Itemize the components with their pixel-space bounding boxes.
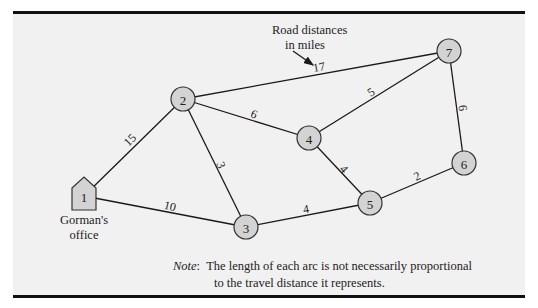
edge-2-4 <box>183 99 309 138</box>
node-1-caption-line-1: Gorman's <box>60 213 108 227</box>
note-line-2: to the travel distance it represents. <box>173 275 472 292</box>
edge-1-2 <box>84 99 183 196</box>
node-label: 4 <box>306 132 313 147</box>
edge-label-5-6: 2 <box>411 168 422 183</box>
edge-labels: 1510361744526 <box>121 59 471 216</box>
node-1-caption-line-2: office <box>70 228 99 242</box>
edge-label-4-5: 4 <box>337 162 351 176</box>
node-label: 3 <box>243 221 250 236</box>
node-label: 5 <box>367 197 374 212</box>
note: Note: The length of each arc is not nece… <box>173 258 472 292</box>
node-4: 4 <box>297 126 321 150</box>
node-6: 6 <box>452 151 476 175</box>
node-label: 2 <box>180 93 187 108</box>
node-label: 7 <box>446 45 453 60</box>
annotation-line-2: in miles <box>285 38 325 52</box>
node-3: 3 <box>234 215 258 239</box>
edge-label-2-3: 3 <box>213 160 228 171</box>
node-7: 7 <box>437 39 461 63</box>
note-line-1: Note: The length of each arc is not nece… <box>173 258 472 275</box>
edge-label-6-7: 6 <box>456 104 471 112</box>
node-1: 1 <box>72 177 96 210</box>
node-1-caption: Gorman's office <box>60 213 108 242</box>
edge-2-7 <box>183 51 449 99</box>
node-2: 2 <box>171 87 195 111</box>
edge-label-2-4: 6 <box>248 106 259 121</box>
edge-label-1-2: 15 <box>121 131 139 149</box>
annotation-arrow <box>293 51 313 65</box>
annotation-line-1: Road distances <box>272 23 347 37</box>
note-separator: : <box>197 259 200 273</box>
edge-label-1-3: 10 <box>162 198 177 214</box>
edges <box>84 51 464 227</box>
annotation: Road distances in miles <box>272 23 347 65</box>
edge-2-3 <box>183 99 246 227</box>
node-label: 6 <box>461 157 468 172</box>
edge-label-3-5: 4 <box>302 202 310 217</box>
edge-label-4-7: 5 <box>365 85 378 100</box>
note-text-1: The length of each arc is not necessaril… <box>206 259 472 273</box>
note-label: Note <box>173 259 197 273</box>
edge-label-2-7: 17 <box>312 59 326 75</box>
node-label: 1 <box>81 190 88 205</box>
node-5: 5 <box>358 191 382 215</box>
